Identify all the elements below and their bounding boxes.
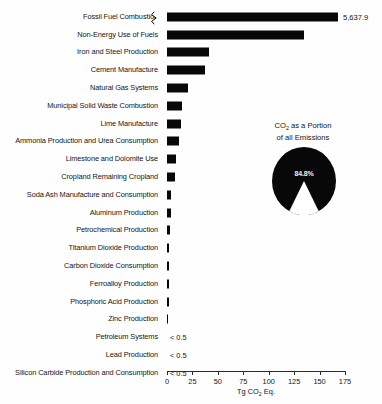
bar [167, 173, 175, 182]
x-axis-tick-label: 75 [239, 377, 247, 386]
bar-row: Titanium Dioxide Production [0, 239, 382, 257]
bar [167, 66, 205, 75]
bar-value-label: < 0.5 [170, 351, 187, 360]
x-axis-line [167, 371, 345, 372]
bar-row: Ferroalloy Production [0, 275, 382, 293]
bar-category-label: Non-Energy Use of Fuels [77, 31, 158, 38]
x-axis-tick-label: 150 [313, 377, 325, 386]
bar [167, 48, 209, 57]
bar [167, 101, 182, 110]
bar-value-label: 5,637.9 [343, 12, 368, 21]
bar [167, 119, 181, 128]
x-axis-title: Tg CO2 Eq. [167, 387, 345, 396]
x-axis-title-subscript: 2 [259, 391, 262, 397]
pie-title: CO2 as a Portion of all Emissions [238, 120, 368, 143]
bar-category-label: Carbon Dioxide Consumption [64, 262, 158, 269]
bar-row: Petroleum Systems< 0.5 [0, 328, 382, 346]
bar [167, 208, 171, 217]
bar [167, 279, 169, 288]
bar-row: Non-Energy Use of Fuels [0, 26, 382, 44]
pie-title-line1: CO2 as a Portion [238, 120, 368, 132]
axis-break-mark-icon [151, 10, 158, 23]
bar-category-label: Cement Manufacture [91, 67, 158, 74]
bar-category-label: Lead Production [106, 351, 158, 358]
bar-category-label: Phosphoric Acid Production [70, 298, 158, 305]
pie-title-line2: of all Emissions [238, 132, 368, 143]
x-axis-tick [345, 371, 346, 375]
bar [167, 226, 170, 235]
bar-value-label: < 0.5 [170, 333, 187, 342]
x-axis-tick-label: 100 [263, 377, 275, 386]
bar-row: Phosphoric Acid Production [0, 293, 382, 311]
pie-svg [271, 146, 337, 216]
x-axis-tick [320, 371, 321, 375]
x-axis-tick [243, 371, 244, 375]
bar-row: Fossil Fuel Combustion5,637.9 [0, 8, 382, 26]
bar-row: Natural Gas Systems [0, 79, 382, 97]
bar [167, 315, 168, 324]
bar-category-label: Ferroalloy Production [90, 280, 158, 287]
x-axis-tick [218, 371, 219, 375]
bar-category-label: Fossil Fuel Combustion [83, 13, 158, 20]
pie-inset: CO2 as a Portion of all Emissions 84.8% [238, 120, 368, 232]
x-axis-tick [269, 371, 270, 375]
pie-chart: 84.8% [271, 146, 337, 216]
bar-category-label: Soda Ash Manufacture and Consumption [27, 191, 158, 198]
bar-category-label: Cropland Remaining Cropland [61, 173, 158, 180]
bar [167, 30, 304, 39]
bar-row: Carbon Dioxide Consumption [0, 257, 382, 275]
x-axis-tick-label: 25 [188, 377, 196, 386]
bar-category-label: Silicon Carbide Production and Consumpti… [15, 369, 158, 376]
bar-category-label: Aluminum Production [90, 209, 158, 216]
x-axis-tick [167, 371, 168, 375]
bar [167, 297, 169, 306]
bar-category-label: Petroleum Systems [96, 334, 158, 341]
bar-category-label: Lime Manufacture [100, 120, 158, 127]
bar-row: Iron and Steel Production [0, 44, 382, 62]
bar-category-label: Iron and Steel Production [77, 49, 158, 56]
bar-category-label: Titanium Dioxide Production [69, 245, 158, 252]
bar-row: Cement Manufacture [0, 61, 382, 79]
x-axis-tick-label: 125 [288, 377, 300, 386]
bar [167, 244, 169, 253]
bar [167, 262, 169, 271]
bar-row: Zinc Production [0, 311, 382, 329]
bar-category-label: Zinc Production [108, 316, 158, 323]
bar-row: Municipal Solid Waste Combustion [0, 97, 382, 115]
bar [167, 137, 179, 146]
x-axis-tick [294, 371, 295, 375]
bar-category-label: Municipal Solid Waste Combustion [47, 102, 158, 109]
x-axis-tick-label: 0 [165, 377, 169, 386]
x-axis-tick-label: 50 [214, 377, 222, 386]
bar [167, 155, 176, 164]
bar-row: Lead Production< 0.5 [0, 346, 382, 364]
bar-category-label: Natural Gas Systems [90, 84, 158, 91]
bar-category-label: Petrochemical Production [76, 227, 158, 234]
bar [167, 84, 188, 93]
bar-category-label: Ammonia Production and Urea Consumption [15, 138, 158, 145]
bar-category-label: Limestone and Dolomite Use [66, 156, 158, 163]
bar-chart: Fossil Fuel Combustion5,637.9Non-Energy … [0, 0, 382, 404]
x-axis-title-suffix: Eq. [262, 387, 275, 396]
x-axis-tick-label: 175 [339, 377, 351, 386]
bar [167, 12, 338, 21]
pie-percentage-label: 84.8% [271, 170, 337, 177]
x-axis-tick [192, 371, 193, 375]
bar-value-label: < 0.5 [170, 368, 187, 377]
bar [167, 190, 171, 199]
x-axis-title-prefix: Tg CO [237, 387, 259, 396]
